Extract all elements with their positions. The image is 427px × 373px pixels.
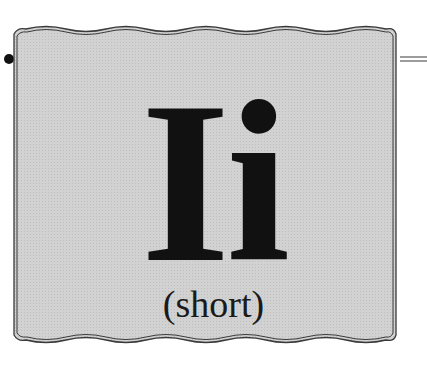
flashcard: Ii (short) [0,0,427,373]
caption: (short) [0,282,427,326]
letter-pair: Ii [0,88,427,278]
